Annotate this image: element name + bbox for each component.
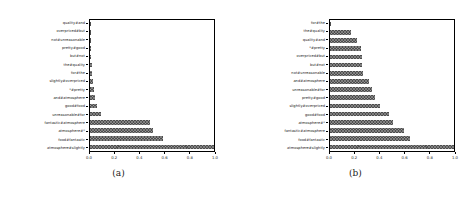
x-tick-label: 0.0 xyxy=(326,155,332,160)
y-tick-label-row: unreasonable#for xyxy=(239,86,328,94)
bar xyxy=(330,30,351,35)
bar xyxy=(90,145,214,150)
y-tick-label: atmosphere#slightly xyxy=(287,146,325,150)
y-tick-mark xyxy=(326,56,328,57)
x-tick-label: 0.0 xyxy=(86,155,92,160)
y-tick-label: overpriced#but xyxy=(57,29,86,33)
x-tick-label: 1.0 xyxy=(212,155,218,160)
bar-row xyxy=(90,28,214,36)
bar-row xyxy=(330,86,454,94)
y-tick-label-row: slightly#overpriced xyxy=(0,77,88,85)
panel-a: quality#andoverpriced#butnot#unreasonabl… xyxy=(0,0,237,198)
bar xyxy=(90,71,92,76)
bar-row xyxy=(90,20,214,28)
x-tick: 0.6 xyxy=(402,152,408,160)
y-tick-label-row: pretty#good xyxy=(0,44,88,52)
bar-row xyxy=(90,86,214,94)
bar xyxy=(330,104,380,109)
y-tick-mark xyxy=(326,114,328,115)
bar xyxy=(90,128,153,133)
y-tick-label-row: not#unreasonable xyxy=(0,36,88,44)
y-tick-label: pretty#good xyxy=(302,96,325,100)
y-tick-label: good#food xyxy=(305,113,325,117)
y-tick-label: overpriced#but xyxy=(297,54,326,58)
y-tick-label: *#pretty xyxy=(69,88,85,92)
y-tick-label: quality#and xyxy=(63,21,85,25)
y-tick-label-row: *#pretty xyxy=(239,44,328,52)
bar xyxy=(330,55,362,60)
bar-row xyxy=(330,36,454,44)
x-tick: 0.8 xyxy=(427,152,433,160)
y-tick-label: pretty#good xyxy=(62,46,85,50)
y-tick-mark xyxy=(86,73,88,74)
x-tick-mark xyxy=(454,152,455,154)
bar-row xyxy=(330,53,454,61)
y-tick-label-row: and#atmosphere xyxy=(239,77,328,85)
panel-b-x-axis-ticks: 0.00.20.40.60.81.0 xyxy=(329,152,455,164)
y-tick-mark xyxy=(86,23,88,24)
bar-row xyxy=(90,110,214,118)
bar-row xyxy=(330,28,454,36)
x-tick: 0.4 xyxy=(376,152,382,160)
y-tick-mark xyxy=(86,64,88,65)
x-tick: 0.2 xyxy=(351,152,357,160)
bar xyxy=(90,95,95,100)
bar-row xyxy=(330,94,454,102)
bar xyxy=(330,38,357,43)
bar-row xyxy=(90,36,214,44)
y-tick-mark xyxy=(326,31,328,32)
bar-row xyxy=(90,135,214,143)
y-tick-label-row: good#food xyxy=(0,102,88,110)
y-tick-label: fantastic#atmosphere xyxy=(284,129,325,133)
y-tick-mark xyxy=(326,131,328,132)
x-tick-mark xyxy=(114,152,115,154)
y-tick-label-row: atmosphere#* xyxy=(239,119,328,127)
panel-b-caption: (b) xyxy=(237,168,474,178)
x-tick-mark xyxy=(214,152,215,154)
y-tick-label-row: for#the xyxy=(0,69,88,77)
x-tick-mark xyxy=(379,152,380,154)
bar-row xyxy=(90,69,214,77)
y-tick-label-row: quality#and xyxy=(239,36,328,44)
x-tick: 0.4 xyxy=(136,152,142,160)
x-tick-mark xyxy=(139,152,140,154)
y-tick-label-row: atmosphere#* xyxy=(0,127,88,135)
y-tick-label: and#atmosphere xyxy=(293,79,325,83)
panel-a-caption: (a) xyxy=(0,168,237,178)
panel-a-plot: quality#andoverpriced#butnot#unreasonabl… xyxy=(0,0,237,167)
y-tick-label: not#unreasonable xyxy=(291,71,325,75)
y-tick-mark xyxy=(326,73,328,74)
bar-row xyxy=(90,143,214,151)
y-tick-label: the#quality xyxy=(64,63,85,67)
y-tick-label-row: food#fantastic xyxy=(0,135,88,143)
y-tick-mark xyxy=(326,23,328,24)
y-tick-label: but#not xyxy=(310,63,325,67)
y-tick-mark xyxy=(86,89,88,90)
y-tick-mark xyxy=(86,147,88,148)
x-tick-mark xyxy=(404,152,405,154)
bar xyxy=(90,55,91,60)
y-tick-label-row: pretty#good xyxy=(239,94,328,102)
panel-a-y-axis-labels: quality#andoverpriced#butnot#unreasonabl… xyxy=(0,19,88,152)
y-tick-label: unreasonable#for xyxy=(292,88,325,92)
y-tick-label-row: unreasonable#for xyxy=(0,110,88,118)
bar-row xyxy=(90,126,214,134)
y-tick-label-row: the#quality xyxy=(239,27,328,35)
x-tick: 1.0 xyxy=(212,152,218,160)
panel-b-plot: for#thethe#qualityquality#and*#prettyove… xyxy=(237,0,474,167)
bar xyxy=(90,136,163,141)
y-tick-label-row: *#pretty xyxy=(0,86,88,94)
bar xyxy=(90,79,93,84)
y-tick-label: atmosphere#slightly xyxy=(47,146,85,150)
y-tick-label: the#quality xyxy=(304,29,325,33)
y-tick-label-row: the#quality xyxy=(0,61,88,69)
y-tick-mark xyxy=(86,139,88,140)
y-tick-label: food#fantastic xyxy=(298,138,325,142)
bar-row xyxy=(90,94,214,102)
y-tick-label: fantastic#atmosphere xyxy=(44,121,85,125)
x-tick-mark xyxy=(189,152,190,154)
bar xyxy=(330,120,393,125)
y-tick-mark xyxy=(86,48,88,49)
y-tick-label-row: but#not xyxy=(239,61,328,69)
y-tick-mark xyxy=(86,114,88,115)
